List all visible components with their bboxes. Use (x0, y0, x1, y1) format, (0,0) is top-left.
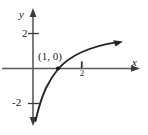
y-tick-label-negative-2: -2 (12, 97, 21, 108)
x-tick-label-one-half: 1 2 (77, 60, 87, 79)
fraction-denominator: 2 (77, 69, 87, 78)
y-tick-label-2: 2 (22, 28, 28, 39)
graph-figure: y x 2 -2 (1, 0) 1 2 (0, 0, 148, 135)
curve-arrow-icon (113, 40, 123, 46)
point-annotation-label: (1, 0) (38, 51, 62, 62)
graph-canvas (0, 0, 148, 135)
point-marker-1-0 (56, 66, 60, 70)
y-axis-up-arrow-icon (30, 8, 37, 17)
y-axis-label: y (19, 9, 24, 20)
x-axis-label: x (132, 57, 137, 68)
